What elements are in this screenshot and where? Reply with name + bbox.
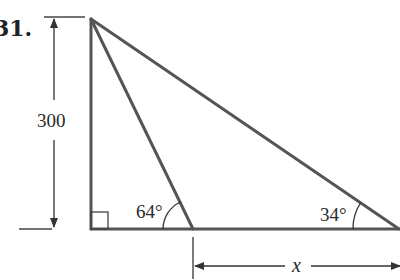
hypotenuse: [91, 19, 399, 229]
angle-label-64: 64°: [136, 201, 163, 222]
triangle-diagram: 31. 300 64° 34° x: [0, 0, 400, 280]
horizontal-dimension: x: [193, 237, 400, 279]
right-angle-marker: [91, 212, 108, 229]
height-label: 300: [37, 110, 66, 131]
angle-arc-64: [163, 202, 181, 229]
angle-label-34: 34°: [320, 204, 347, 225]
inner-cevian: [91, 19, 193, 229]
problem-number: 31.: [0, 15, 32, 41]
triangle: [91, 19, 399, 229]
vertical-dimension: 300: [19, 17, 85, 229]
base-segment-label: x: [291, 254, 301, 276]
angle-arc-34: [353, 203, 361, 229]
